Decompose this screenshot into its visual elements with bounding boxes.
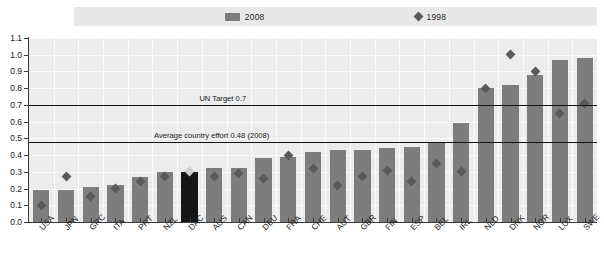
bar-gbr xyxy=(354,150,370,222)
legend-label-1998: 1998 xyxy=(427,12,447,22)
gridline-vertical xyxy=(128,38,129,222)
y-tick-mark xyxy=(24,55,28,56)
y-tick-label: 0.3 xyxy=(0,167,22,177)
bar-bel xyxy=(428,142,444,222)
bar-fra xyxy=(280,157,296,222)
y-tick-mark xyxy=(24,205,28,206)
y-tick-label: 0.7 xyxy=(0,100,22,110)
gridline-horizontal xyxy=(29,38,597,39)
y-tick-mark xyxy=(24,138,28,139)
gridline-vertical xyxy=(375,38,376,222)
gridline-vertical xyxy=(548,38,549,222)
y-tick-mark xyxy=(24,88,28,89)
y-tick-mark xyxy=(24,105,28,106)
y-tick-label: 0.0 xyxy=(0,217,22,227)
y-tick-mark xyxy=(24,71,28,72)
gridline-vertical xyxy=(572,38,573,222)
chart-legend: 2008 1998 xyxy=(74,7,597,26)
y-tick-mark xyxy=(24,155,28,156)
x-axis-labels: USAJPNGRCITAPRTNZLDACAUSCANDEUFRACHEAUTG… xyxy=(29,222,597,260)
reference-line-label-1: Average country effort 0.48 (2008) xyxy=(154,131,269,140)
legend-label-2008: 2008 xyxy=(245,12,265,22)
bar-nld xyxy=(478,88,494,222)
bar-nor xyxy=(527,75,543,222)
y-tick-label: 0.6 xyxy=(0,117,22,127)
gridline-vertical xyxy=(276,38,277,222)
y-tick-label: 0.1 xyxy=(0,200,22,210)
legend-item-1998: 1998 xyxy=(415,12,447,22)
y-tick-mark xyxy=(24,189,28,190)
gridline-vertical xyxy=(350,38,351,222)
gridline-vertical xyxy=(399,38,400,222)
plot-area: UN Target 0.7Average country effort 0.48… xyxy=(29,38,597,222)
y-tick-label: 0.2 xyxy=(0,184,22,194)
bar-deu xyxy=(255,158,271,222)
gridline-vertical xyxy=(103,38,104,222)
y-tick-mark xyxy=(24,172,28,173)
y-tick-label: 1.0 xyxy=(0,50,22,60)
marker-jpn xyxy=(61,172,71,182)
y-tick-label: 0.5 xyxy=(0,133,22,143)
y-axis-line xyxy=(28,37,29,223)
gridline-vertical xyxy=(325,38,326,222)
chart-container: 2008 1998 UN Target 0.7Average country e… xyxy=(0,0,604,260)
bar-fin xyxy=(379,148,395,222)
gridline-vertical xyxy=(474,38,475,222)
y-tick-label: 0.4 xyxy=(0,150,22,160)
gridline-vertical xyxy=(523,38,524,222)
y-tick-mark xyxy=(24,222,28,223)
gridline-horizontal xyxy=(29,71,597,72)
gridline-vertical xyxy=(449,38,450,222)
gridline-vertical xyxy=(424,38,425,222)
bar-swatch-icon xyxy=(225,13,240,21)
y-tick-label: 1.1 xyxy=(0,33,22,43)
marker-dnk xyxy=(506,50,516,60)
reference-line-1 xyxy=(29,142,597,143)
y-tick-label: 0.8 xyxy=(0,83,22,93)
y-tick-mark xyxy=(24,122,28,123)
gridline-vertical xyxy=(301,38,302,222)
y-tick-mark xyxy=(24,38,28,39)
gridline-vertical xyxy=(78,38,79,222)
legend-item-2008: 2008 xyxy=(225,12,265,22)
reference-line-0 xyxy=(29,105,597,106)
reference-line-label-0: UN Target 0.7 xyxy=(199,94,246,103)
diamond-marker-icon xyxy=(413,12,423,22)
gridline-vertical xyxy=(54,38,55,222)
bar-swe xyxy=(577,58,593,222)
y-tick-label: 0.9 xyxy=(0,66,22,76)
gridline-vertical xyxy=(498,38,499,222)
